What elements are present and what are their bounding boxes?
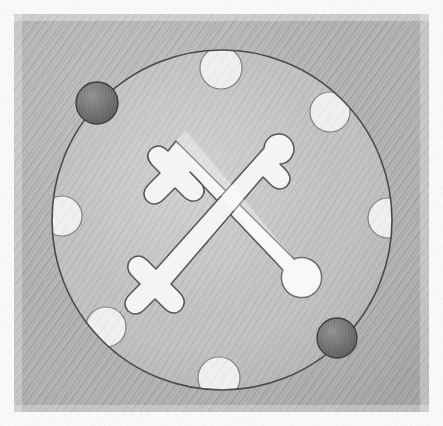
dark-dot-upper-left [76,82,118,124]
dark-dot-lower-right [317,318,357,358]
artwork-canvas: A pencil drawing of a large shaded circl… [0,0,443,426]
pencil-sketch-illustration [0,0,443,426]
light-dot-top [200,47,242,89]
